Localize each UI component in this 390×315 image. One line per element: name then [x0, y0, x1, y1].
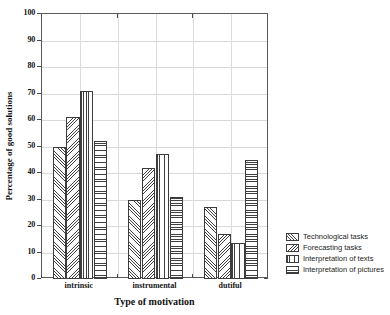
- x-tick-mark: [41, 274, 42, 278]
- x-tick-mark-top: [117, 14, 118, 18]
- x-tick-mark-top: [192, 14, 193, 18]
- bar: [66, 117, 79, 279]
- x-tick-label: dutiful: [185, 281, 275, 290]
- legend-item: Forecasting tasks: [286, 242, 390, 253]
- legend-item: Technological tasks: [286, 231, 390, 242]
- bar: [245, 160, 258, 279]
- x-tick-mark: [192, 274, 193, 278]
- y-tick-mark: [37, 278, 41, 279]
- legend-label-technological-tasks: Technological tasks: [303, 232, 368, 241]
- bar: [156, 154, 169, 279]
- bar: [128, 200, 141, 280]
- y-tick-label: 80: [14, 61, 35, 70]
- y-tick-label: 0: [14, 273, 35, 282]
- legend-swatch-interpretation-of-pictures: [286, 266, 299, 274]
- gridline-horizontal: [42, 41, 267, 42]
- bar: [53, 147, 66, 280]
- bar: [231, 243, 244, 279]
- x-tick-mark: [117, 274, 118, 278]
- legend-item: Interpretation of texts: [286, 253, 390, 264]
- y-tick-label: 30: [14, 194, 35, 203]
- gridline-vertical: [118, 14, 119, 277]
- x-tick-mark-top: [41, 14, 42, 18]
- bar: [80, 91, 93, 279]
- legend-swatch-technological-tasks: [286, 233, 299, 241]
- x-axis-title: Type of motivation: [41, 296, 268, 307]
- bar: [218, 234, 231, 279]
- y-tick-label: 40: [14, 167, 35, 176]
- legend-label-forecasting-tasks: Forecasting tasks: [303, 243, 362, 252]
- bar: [94, 141, 107, 279]
- y-tick-label: 50: [14, 141, 35, 150]
- y-tick-mark-right: [264, 278, 268, 279]
- y-axis-title-text: Percentage of good solutions: [4, 91, 14, 200]
- gridline-horizontal: [42, 94, 267, 95]
- bar: [142, 168, 155, 279]
- y-tick-label: 10: [14, 247, 35, 256]
- gridline-vertical: [231, 14, 232, 277]
- legend-label-interpretation-of-pictures: Interpretation of pictures: [303, 265, 384, 274]
- y-tick-label: 20: [14, 220, 35, 229]
- legend-swatch-forecasting-tasks: [286, 244, 299, 252]
- y-tick-label: 70: [14, 88, 35, 97]
- gridline-horizontal: [42, 67, 267, 68]
- y-tick-label: 100: [14, 8, 35, 17]
- legend-label-interpretation-of-texts: Interpretation of texts: [303, 254, 373, 263]
- y-tick-label: 60: [14, 114, 35, 123]
- legend: Technological tasks Forecasting tasks In…: [286, 231, 390, 275]
- bar: [170, 197, 183, 279]
- legend-item: Interpretation of pictures: [286, 264, 390, 275]
- plot-area: [41, 13, 268, 278]
- gridline-vertical: [193, 14, 194, 277]
- y-tick-label: 90: [14, 35, 35, 44]
- legend-swatch-interpretation-of-texts: [286, 255, 299, 263]
- chart-figure: Percentage of good solutions 01020304050…: [0, 0, 390, 315]
- bar: [204, 207, 217, 279]
